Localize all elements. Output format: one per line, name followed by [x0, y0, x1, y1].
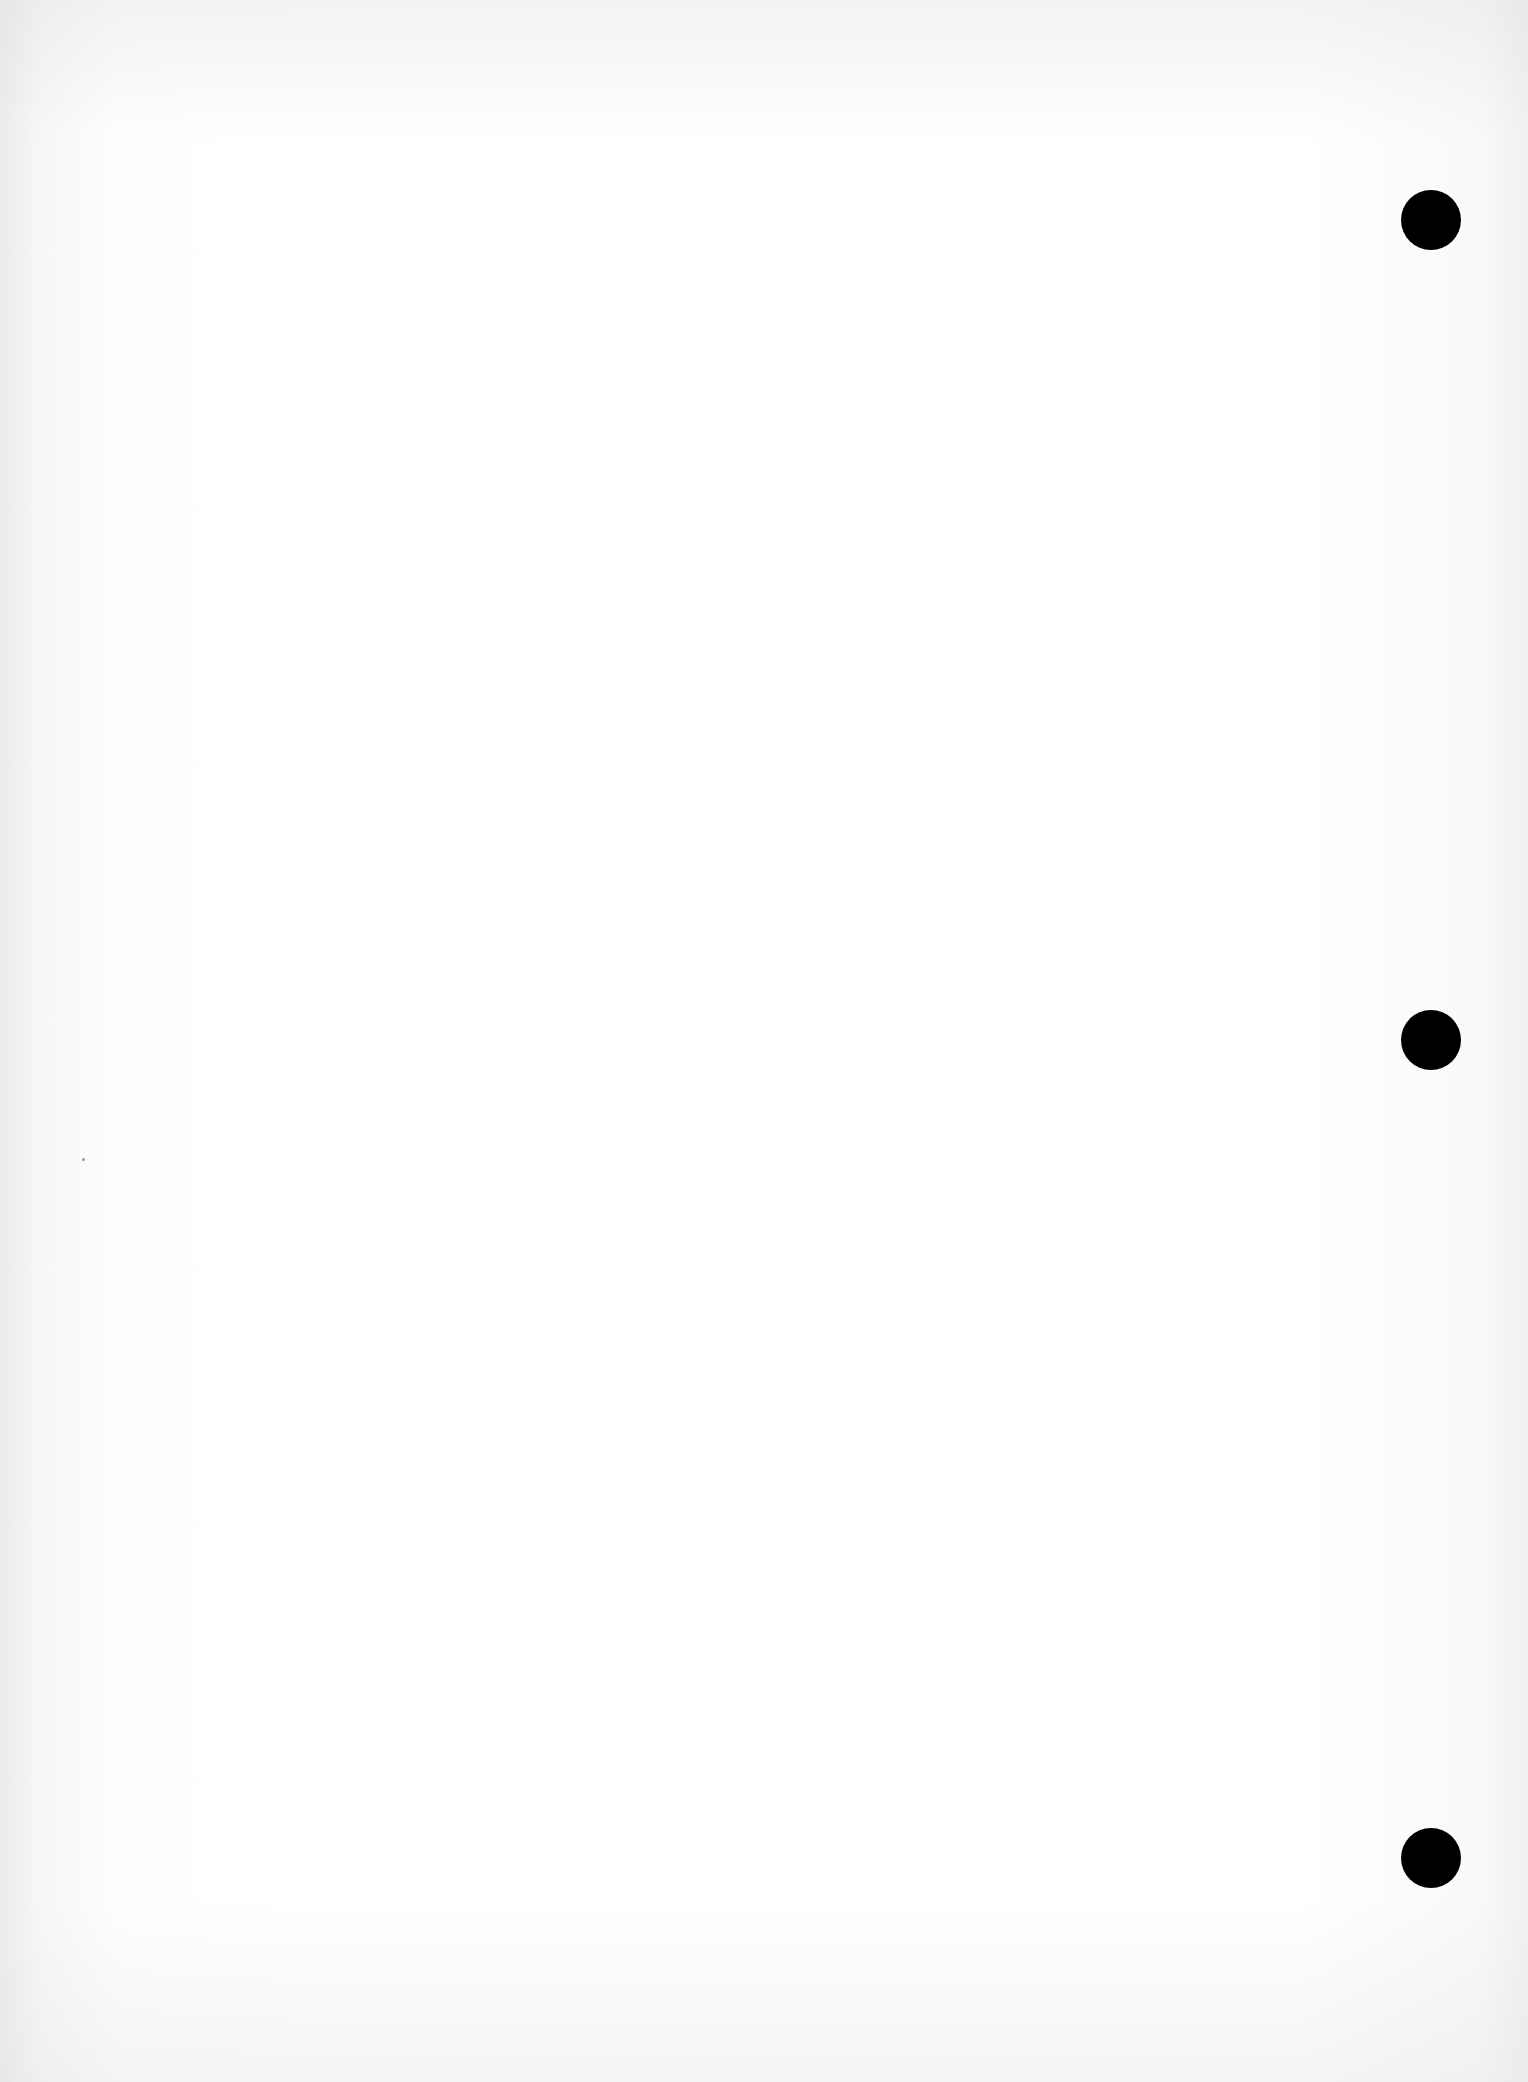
paper-speck [82, 1158, 85, 1161]
punch-hole-bottom [1401, 1828, 1461, 1888]
punch-hole-top [1401, 190, 1461, 250]
punch-hole-middle [1401, 1010, 1461, 1070]
blank-page [0, 0, 1528, 2082]
